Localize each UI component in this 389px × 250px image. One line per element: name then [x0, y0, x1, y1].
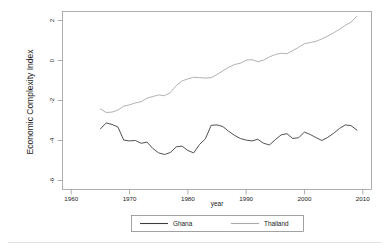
economic-complexity-line-chart: Economic Complexity Index year 20-2-4-6 … — [0, 0, 389, 250]
x-axis-title: year — [211, 200, 224, 208]
x-tick-label: 2010 — [356, 195, 370, 202]
chart-background — [0, 0, 389, 250]
chart-figure: Economic Complexity Index year 20-2-4-6 … — [0, 0, 389, 250]
chart-legend: Ghana Thailand — [132, 216, 304, 232]
y-axis-title: Economic Complexity Index — [25, 49, 35, 155]
y-tick-label: 2 — [48, 18, 55, 22]
y-tick-label: -6 — [48, 177, 55, 183]
y-tick-label: -4 — [48, 137, 55, 143]
x-tick-label: 1960 — [64, 195, 78, 202]
x-tick-label: 1990 — [239, 195, 253, 202]
x-tick-label: 1980 — [181, 195, 195, 202]
y-tick-label: 0 — [48, 58, 55, 62]
x-tick-label: 1970 — [123, 195, 137, 202]
y-tick-label: -2 — [48, 97, 55, 103]
legend-label-ghana: Ghana — [173, 220, 193, 227]
x-tick-label: 2000 — [298, 195, 312, 202]
legend-label-thailand: Thailand — [264, 220, 289, 227]
